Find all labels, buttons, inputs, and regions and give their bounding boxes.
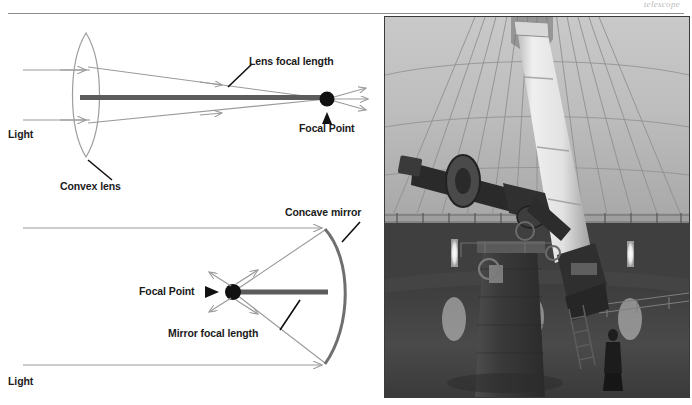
label-mirror-focal-length: Mirror focal length xyxy=(168,327,258,339)
label-mirror-focal-point: Focal Point xyxy=(139,285,195,297)
convex-lens-leader xyxy=(88,160,112,180)
label-lens-focal-point: Focal Point xyxy=(299,122,355,134)
label-lens-focal-length: Lens focal length xyxy=(249,55,334,67)
lens-incoming-rays xyxy=(23,70,86,120)
concave-mirror-arc xyxy=(325,229,345,364)
pier-door-panel xyxy=(489,265,503,283)
mirror-focal-point-pointer xyxy=(205,286,219,298)
mirror-reflected-rays xyxy=(233,230,325,363)
mirror-focal-point-dot xyxy=(225,284,241,300)
concave-mirror-leader xyxy=(342,222,360,242)
lens-focal-length-bar xyxy=(80,95,327,100)
label-lens-light: Light xyxy=(8,128,33,140)
observatory-telescope-photo xyxy=(384,16,690,398)
lens-focal-length-leader xyxy=(228,64,252,87)
mirror-focal-length-bar xyxy=(233,290,328,295)
pier-shadow xyxy=(447,373,563,393)
optics-diagram-pane: Lens focal length Focal Point Light Conv… xyxy=(0,14,380,405)
label-mirror-light: Light xyxy=(8,375,33,387)
mirror-focal-length-leader xyxy=(280,300,300,330)
header-text-fragment: telescope xyxy=(644,0,680,9)
figure-page: telescope xyxy=(0,0,692,405)
lens-focal-point-dot xyxy=(320,92,335,107)
label-convex-lens: Convex lens xyxy=(60,180,121,192)
label-concave-mirror: Concave mirror xyxy=(285,206,361,218)
